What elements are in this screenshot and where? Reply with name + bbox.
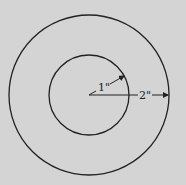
inner-radius-line-start — [89, 91, 96, 95]
inner-radius-arrow — [110, 76, 124, 84]
concentric-circles-diagram: 1" 2" — [0, 0, 186, 185]
outer-radius-label: 2" — [139, 89, 151, 102]
inner-radius-label: 1" — [98, 81, 110, 94]
